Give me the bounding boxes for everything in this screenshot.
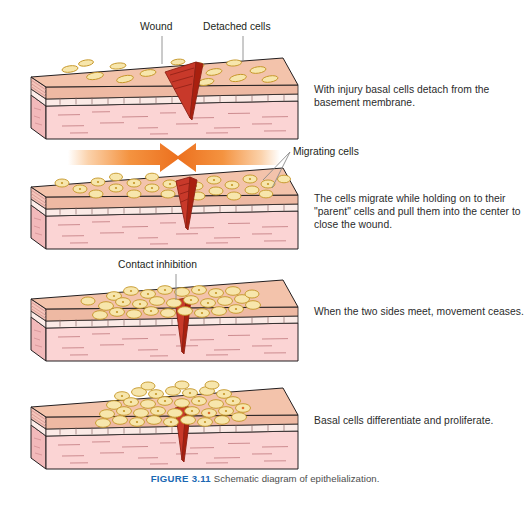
callout-label-contact-inhibition: Contact inhibition [118,259,197,271]
callout-label-migrating-cells: Migrating cells [293,146,359,158]
panel-1-block [31,58,298,139]
panel-2-block [31,168,298,249]
figure-caption-text: Schematic diagram of epithelialization. [214,473,380,484]
panel-4-block [31,381,298,469]
migration-arrows [68,143,280,172]
panel-1-description: With injury basal cells detach from the … [314,83,528,109]
figure-caption: FIGURE 3.11 Schematic diagram of epithel… [0,473,530,484]
epithelialization-diagram [0,0,530,506]
figure-caption-label: FIGURE 3.11 [151,473,211,484]
panel-3-block [31,280,298,361]
arrow-right [68,143,180,172]
arrow-left [176,143,280,172]
panel-2-description: The cells migrate while holding on to th… [314,192,528,232]
callout-label-detached-cells: Detached cells [203,21,271,33]
panel-4-description: Basal cells differentiate and proliferat… [314,414,528,427]
callout-label-wound: Wound [140,21,172,33]
panel-3-description: When the two sides meet, movement ceases… [314,305,528,318]
figure-epithelialization: Wound Detached cells Migrating cells Con… [0,0,530,506]
